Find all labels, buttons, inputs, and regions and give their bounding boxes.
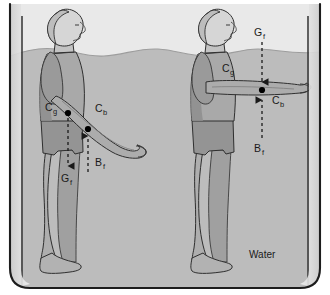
left-bf-label-main: B	[95, 156, 102, 168]
left-cg-marker	[65, 110, 71, 116]
left-cb-label-sub: b	[103, 108, 107, 117]
right-cb-label-sub: b	[280, 100, 284, 109]
left-cb-label-main: C	[95, 102, 103, 114]
left-cb-marker	[85, 126, 91, 132]
left-cg-label-sub: g	[53, 107, 57, 116]
left-gf-label-main: G	[61, 172, 69, 184]
left-cg-label-main: C	[45, 101, 53, 113]
right-cg-label-main: C	[222, 62, 230, 74]
water-label: Water	[249, 249, 276, 260]
right-bf-label-main: B	[254, 142, 261, 154]
right-cg-label-sub: g	[230, 68, 234, 77]
right-cb-label-main: C	[272, 94, 280, 106]
right-gf-label-main: G	[254, 26, 262, 38]
figure-canvas: C g C b G f B f G f C g C b B f Water	[0, 0, 330, 295]
right-figure-shorts	[192, 120, 234, 155]
right-cgcb-marker	[259, 87, 265, 93]
